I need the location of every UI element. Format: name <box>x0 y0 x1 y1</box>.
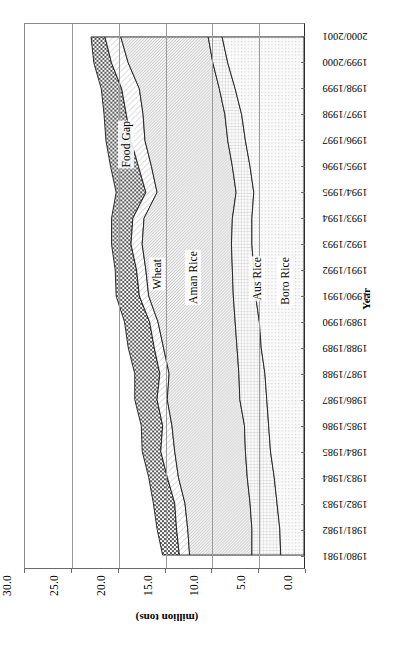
year-axis-label: 1987/1988 <box>309 368 381 380</box>
year-axis-tick <box>301 504 305 505</box>
series-label-aus-rice: Aus Rice <box>249 256 265 301</box>
year-axis-tick <box>301 192 305 193</box>
gridline <box>212 24 213 568</box>
year-axis-label: 1994/1995 <box>309 186 381 198</box>
value-axis-tick <box>165 569 166 573</box>
value-axis-tick <box>305 569 306 573</box>
year-axis-tick <box>301 140 305 141</box>
year-axis-tick <box>301 530 305 531</box>
year-axis-label: 1985/1986 <box>309 420 381 432</box>
year-axis-tick <box>301 374 305 375</box>
chart-figure: 0.05.010.015.020.025.030.0 (million tons… <box>0 0 394 647</box>
year-axis-label: 1993/1994 <box>309 212 381 224</box>
year-axis-label: 1996/1997 <box>309 134 381 146</box>
gridline <box>72 24 73 568</box>
value-axis-label: 15.0 <box>142 575 188 596</box>
value-axis-title: (million tons) <box>92 612 242 624</box>
value-axis-label: 30.0 <box>1 575 47 596</box>
year-axis-label: 1982/1983 <box>309 498 381 510</box>
year-axis-label: 1980/1981 <box>309 550 381 562</box>
gridline <box>119 24 120 568</box>
year-axis-label: 1999/2000 <box>309 56 381 68</box>
value-axis-tick <box>211 569 212 573</box>
year-axis-tick <box>301 478 305 479</box>
year-axis-tick <box>301 270 305 271</box>
value-axis-label: 5.0 <box>235 575 281 590</box>
series-label-food-gap: Food Gap <box>118 120 134 168</box>
year-axis-label: 1983/1984 <box>309 472 381 484</box>
year-axis-tick <box>301 426 305 427</box>
year-axis-tick <box>301 114 305 115</box>
year-axis-tick <box>301 62 305 63</box>
year-axis-tick <box>301 218 305 219</box>
year-axis-label: 1989/1990 <box>309 316 381 328</box>
year-axis-label: 1997/1998 <box>309 108 381 120</box>
year-axis-label: 1998/1999 <box>309 82 381 94</box>
value-axis-tick <box>24 569 25 573</box>
year-axis-tick <box>301 36 305 37</box>
year-axis-tick <box>301 88 305 89</box>
year-axis-tick <box>301 348 305 349</box>
year-axis-tick <box>301 556 305 557</box>
year-axis-tick <box>301 296 305 297</box>
year-axis-label: 1986/1987 <box>309 394 381 406</box>
value-axis-tick <box>71 569 72 573</box>
year-axis-label: 1992/1993 <box>309 238 381 250</box>
value-axis-tick <box>258 569 259 573</box>
year-axis-tick <box>301 166 305 167</box>
year-axis-label: 1984/1985 <box>309 446 381 458</box>
year-axis-label: 1995/1996 <box>309 160 381 172</box>
value-axis-label: 0.0 <box>282 575 328 590</box>
year-axis-label: 1988/1989 <box>309 342 381 354</box>
year-axis-label: 1991/1992 <box>309 264 381 276</box>
year-axis-tick <box>301 322 305 323</box>
year-axis-tick <box>301 244 305 245</box>
value-axis-label: 20.0 <box>95 575 141 596</box>
series-label-boro-rice: Boro Rice <box>277 256 293 306</box>
year-axis-label: 1981/1982 <box>309 524 381 536</box>
year-axis-title: Year <box>360 288 372 310</box>
year-axis-label: 2000/2001 <box>309 30 381 42</box>
series-label-wheat: Wheat <box>149 258 165 291</box>
value-axis-tick <box>118 569 119 573</box>
year-axis-tick <box>301 452 305 453</box>
value-axis-label: 25.0 <box>48 575 94 596</box>
year-axis-tick <box>301 400 305 401</box>
gridline <box>166 24 167 568</box>
series-label-aman-rice: Aman Rice <box>185 250 201 305</box>
value-axis-label: 10.0 <box>188 575 234 596</box>
